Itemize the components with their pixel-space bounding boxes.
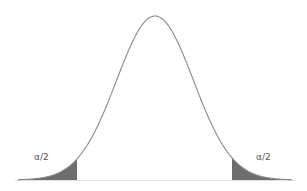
density-curve xyxy=(18,16,292,180)
normal-curve-diagram: α/2 α/2 xyxy=(0,0,307,191)
right-tail-label: α/2 xyxy=(256,152,271,162)
left-tail-label: α/2 xyxy=(34,152,49,162)
